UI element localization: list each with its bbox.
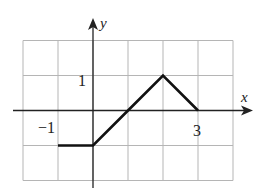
y-axis-label: y [98,15,107,31]
x-axis-label: x [240,89,248,105]
function-graph: y x 1 −1 3 [0,0,258,191]
tick-label-y-1: 1 [78,72,86,89]
tick-label-x-3: 3 [193,122,201,139]
tick-label-x-neg1: −1 [38,119,55,136]
axes [13,18,253,188]
